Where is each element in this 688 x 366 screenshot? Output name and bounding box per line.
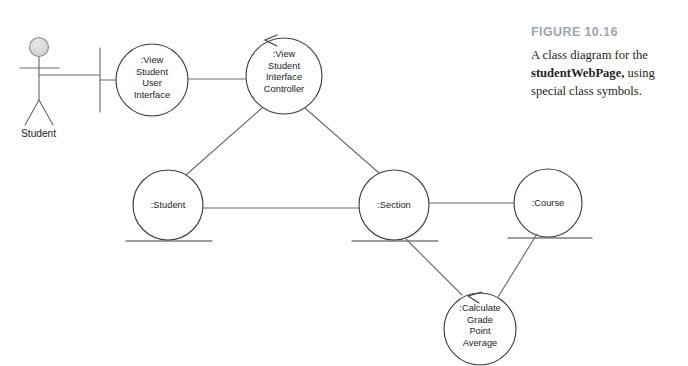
node-view-student-interface-controller[interactable] <box>246 38 322 114</box>
assoc-controller-to-section <box>305 108 379 173</box>
actor-label-student: Student <box>21 128 56 139</box>
actor-head-icon <box>30 38 49 57</box>
figure-canvas: :View Student User Interface :View Stude… <box>0 0 688 366</box>
node-view-student-user-interface[interactable] <box>116 44 188 116</box>
node-course[interactable] <box>514 169 582 237</box>
figure-caption-text: A class diagram for the studentWebPage, … <box>531 47 683 101</box>
boundary-symbol <box>100 48 116 112</box>
caption-lead-text: A class diagram for the <box>531 48 648 62</box>
actor-student <box>20 38 59 126</box>
node-section[interactable] <box>359 170 429 240</box>
assoc-controller-to-student <box>186 108 262 175</box>
assoc-course-to-calculate-gpa <box>498 234 537 297</box>
actor-left-leg-line <box>25 100 39 125</box>
actor-right-leg-line <box>39 100 53 125</box>
figure-number-label: FIGURE 10.16 <box>531 26 683 40</box>
caption-bold-term: studentWebPage, <box>531 66 624 80</box>
node-student[interactable] <box>133 170 203 240</box>
node-calculate-grade-point-average[interactable] <box>444 293 516 365</box>
figure-caption-block: FIGURE 10.16 A class diagram for the stu… <box>531 26 683 100</box>
assoc-section-to-calculate-gpa <box>406 239 462 295</box>
